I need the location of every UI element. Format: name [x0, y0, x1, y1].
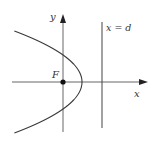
- focus-label: F: [51, 69, 60, 80]
- x-axis-arrow-icon: [139, 79, 148, 85]
- y-axis-label: y: [49, 11, 56, 22]
- directrix-label: x = d: [106, 22, 131, 33]
- parabola-diagram: y x F x = d: [0, 0, 155, 146]
- x-axis-label: x: [134, 88, 140, 99]
- y-axis-arrow-icon: [60, 14, 66, 23]
- focus-point: [60, 79, 65, 84]
